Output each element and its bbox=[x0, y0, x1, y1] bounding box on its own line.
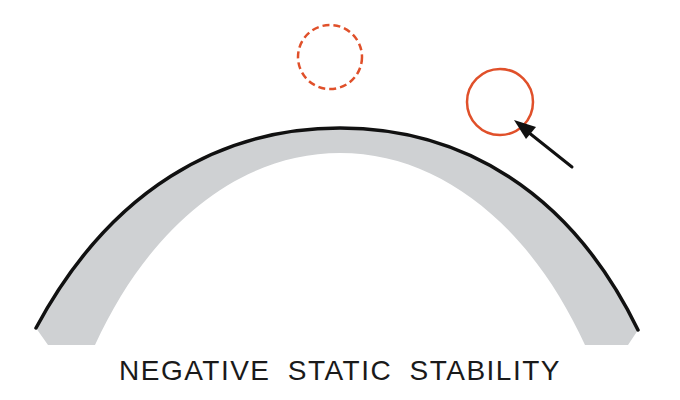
stability-diagram bbox=[0, 0, 680, 400]
ball-equilibrium-dashed bbox=[298, 25, 362, 89]
disturbance-arrow-icon bbox=[514, 120, 572, 167]
diagram-caption: NEGATIVE STATIC STABILITY bbox=[0, 355, 680, 387]
hill-surface bbox=[36, 128, 638, 345]
